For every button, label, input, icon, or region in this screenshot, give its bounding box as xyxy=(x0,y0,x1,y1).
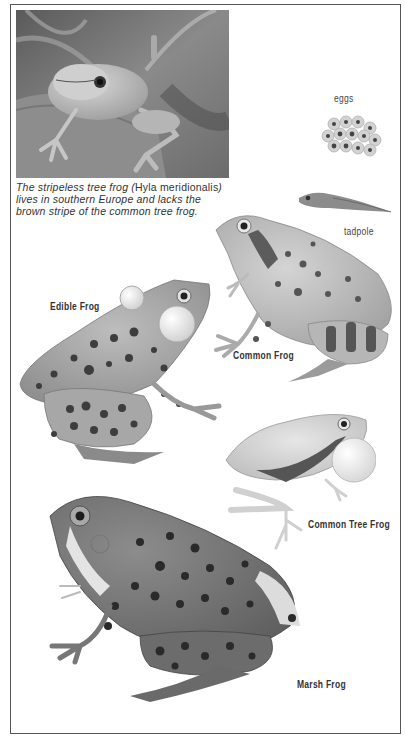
marsh-frog-illustration xyxy=(40,486,310,704)
caption-text-1: The stripeless tree frog ( xyxy=(16,181,135,193)
eggs-illustration xyxy=(320,114,384,160)
marsh-frog-label: Marsh Frog xyxy=(297,679,346,690)
common-tree-frog-label: Common Tree Frog xyxy=(308,519,390,530)
edible-frog-illustration xyxy=(14,274,224,470)
common-frog-label: Common Frog xyxy=(233,350,294,361)
tree-frog-photo xyxy=(16,10,229,178)
edible-frog-label: Edible Frog xyxy=(50,301,100,312)
eggs-label: eggs xyxy=(334,93,353,104)
caption-species: Hyla meridionalis xyxy=(135,181,218,193)
photo-caption: The stripeless tree frog (Hyla meridiona… xyxy=(16,181,226,217)
